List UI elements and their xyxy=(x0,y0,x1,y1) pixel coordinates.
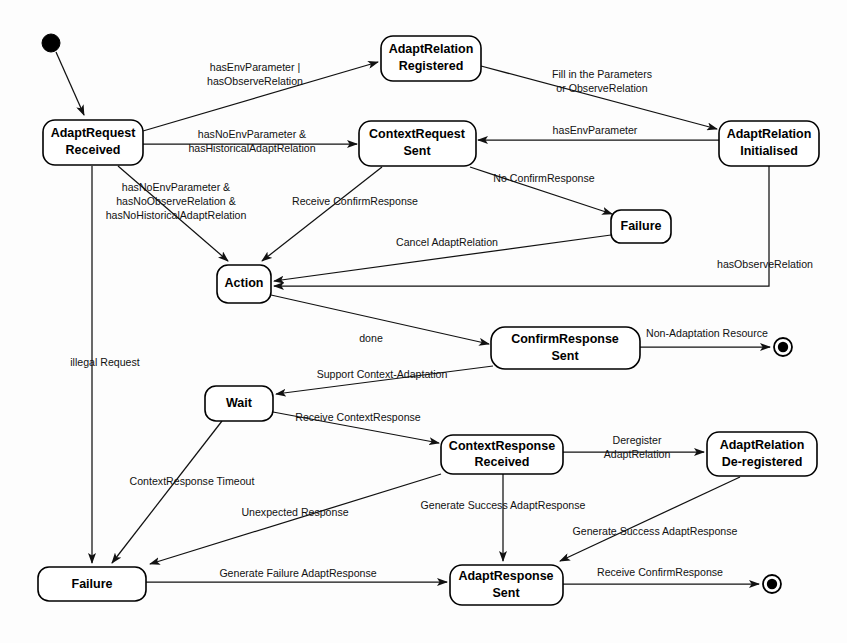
state-diagram-canvas: hasEnvParameter | hasObserveRelation Fil… xyxy=(0,0,847,643)
state-label-line1: AdaptResponse xyxy=(458,569,553,583)
state-context-response-received[interactable]: ContextResponse Received xyxy=(441,435,563,474)
edge-wait-to-failure-bottom xyxy=(112,421,222,563)
state-label-line1: ContextRequest xyxy=(369,127,466,141)
edge-label-context-response-to-failure: Unexpected Response xyxy=(241,506,348,518)
state-diagram-svg: hasEnvParameter | hasObserveRelation Fil… xyxy=(0,0,847,643)
edge-label-context-response-to-deregistered-line2: AdaptRelation xyxy=(604,448,671,460)
edge-label-wait-to-failure-bottom: ContextResponse Timeout xyxy=(130,475,255,487)
state-label-line2: Received xyxy=(66,143,121,157)
edge-label-confirm-response-to-wait: Support Context-Adaptation xyxy=(317,368,448,380)
state-label-line1: AdaptRelation xyxy=(720,438,805,452)
edge-label-adapt-request-to-context-request-line1: hasNoEnvParameter & xyxy=(198,128,306,140)
edge-label-adapt-request-to-registered-line2: hasObserveRelation xyxy=(207,75,303,87)
edge-label-wait-to-context-response: Receive ContextResponse xyxy=(295,411,421,423)
edge-label-failure-to-action: Cancel AdaptRelation xyxy=(396,236,498,248)
edge-label-initialised-to-context-request: hasEnvParameter xyxy=(553,124,638,136)
state-label-line1: AdaptRelation xyxy=(727,127,812,141)
final-state-bottom[interactable] xyxy=(763,575,781,593)
state-wait[interactable]: Wait xyxy=(205,386,273,421)
state-label-line2: Sent xyxy=(403,144,431,158)
edge-label-adapt-request-to-failure-bottom: illegal Request xyxy=(70,356,140,368)
edge-label-context-request-to-failure: No ConfirmResponse xyxy=(493,172,594,184)
edge-label-deregistered-to-adapt-response: Generate Success AdaptResponse xyxy=(573,525,738,537)
edge-label-initialised-to-action: hasObserveRelation xyxy=(717,258,813,270)
state-label-line1: Failure xyxy=(621,219,662,233)
edge-label-adapt-response-to-final: Receive ConfirmResponse xyxy=(597,566,723,578)
state-failure-bottom[interactable]: Failure xyxy=(38,567,146,601)
state-context-request-sent[interactable]: ContextRequest Sent xyxy=(359,121,476,166)
state-label-line2: Sent xyxy=(551,349,579,363)
state-label-line1: AdaptRelation xyxy=(389,42,474,56)
state-label-line1: Action xyxy=(225,276,264,290)
state-label-line2: Initialised xyxy=(740,144,798,158)
initial-state-node[interactable] xyxy=(42,34,60,52)
state-adapt-request-received[interactable]: AdaptRequest Received xyxy=(43,120,143,165)
state-adapt-response-sent[interactable]: AdaptResponse Sent xyxy=(450,565,563,605)
edge-label-action-to-confirm-response: done xyxy=(359,332,383,344)
state-action[interactable]: Action xyxy=(217,265,271,303)
edge-label-adapt-request-to-action-line2: hasNoObserveRelation & xyxy=(116,195,236,207)
edge-initial-to-adapt-request-received xyxy=(56,52,84,115)
edge-label-context-response-to-deregistered-line1: Deregister xyxy=(613,434,662,446)
final-state-top[interactable] xyxy=(774,338,792,356)
edge-label-context-request-to-action: Receive ConfirmResponse xyxy=(292,195,418,207)
final-state-dot xyxy=(767,579,777,589)
state-label-line2: Registered xyxy=(399,59,464,73)
state-label-line1: AdaptRequest xyxy=(51,126,137,140)
state-label-line2: Received xyxy=(475,455,530,469)
final-state-dot xyxy=(778,342,788,352)
edge-context-response-to-failure xyxy=(150,474,441,564)
state-adapt-relation-registered[interactable]: AdaptRelation Registered xyxy=(381,36,481,81)
state-failure-middle[interactable]: Failure xyxy=(611,210,671,243)
state-adapt-relation-initialised[interactable]: AdaptRelation Initialised xyxy=(719,121,819,166)
node-layer: AdaptRequest Received AdaptRelation Regi… xyxy=(38,34,819,605)
state-label-line2: De-registered xyxy=(722,455,803,469)
edge-label-context-response-to-adapt-response: Generate Success AdaptResponse xyxy=(421,499,586,511)
edge-label-adapt-request-to-context-request-line2: hasHistoricalAdaptRelation xyxy=(188,142,315,154)
state-label-line2: Sent xyxy=(492,586,520,600)
state-confirm-response-sent[interactable]: ConfirmResponse Sent xyxy=(491,327,640,369)
state-label-line1: ConfirmResponse xyxy=(511,332,619,346)
edge-label-failure-to-adapt-response: Generate Failure AdaptResponse xyxy=(219,567,376,579)
state-label-line1: Wait xyxy=(226,396,253,410)
state-label-line1: ContextResponse xyxy=(449,439,555,453)
state-adapt-relation-deregistered[interactable]: AdaptRelation De-registered xyxy=(707,432,817,476)
edge-label-registered-to-initialised-line2: or ObserveRelation xyxy=(556,82,647,94)
edge-label-registered-to-initialised-line1: Fill in the Parameters xyxy=(552,68,652,80)
state-label-line1: Failure xyxy=(72,577,113,591)
edge-deregistered-to-adapt-response xyxy=(560,477,740,561)
edge-label-adapt-request-to-action-line1: hasNoEnvParameter & xyxy=(122,181,230,193)
edge-context-request-to-action xyxy=(262,167,382,261)
edge-label-adapt-request-to-registered-line1: hasEnvParameter | xyxy=(210,61,301,73)
edge-label-adapt-request-to-action-line3: hasNoHistoricalAdaptRelation xyxy=(106,209,247,221)
edge-label-confirm-response-to-final: Non-Adaptation Resource xyxy=(646,327,768,339)
